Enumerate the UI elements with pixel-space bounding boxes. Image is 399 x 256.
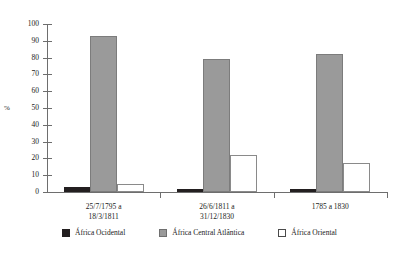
y-axis-title: % <box>4 104 10 112</box>
y-axis-tick <box>43 74 52 75</box>
bar <box>203 59 230 192</box>
legend-label: África Oriental <box>291 228 337 237</box>
bar-chart: % 0102030405060708090100 25/7/1795 a 18/… <box>0 0 399 256</box>
chart-legend: África OcidentalÁfrica Central Atlântica… <box>0 228 399 237</box>
legend-item: África Ocidental <box>62 228 125 237</box>
bar <box>90 36 117 192</box>
page-bleed-bottom <box>0 249 399 256</box>
legend-label: África Ocidental <box>75 228 125 237</box>
y-axis-tick <box>43 142 52 143</box>
bar <box>230 155 257 192</box>
x-axis-group-tick <box>160 192 161 198</box>
x-axis-category-label: 26/6/1811 a 31/12/1830 <box>160 202 273 221</box>
y-axis-tick <box>43 41 52 42</box>
x-axis-category-label: 1785 a 1830 <box>274 202 387 212</box>
y-axis-tick <box>43 24 52 25</box>
y-axis-tick <box>43 158 52 159</box>
y-axis-tick-label: 40 <box>13 121 39 129</box>
y-axis-tick <box>43 58 52 59</box>
bar <box>343 163 370 192</box>
y-axis-tick <box>43 91 52 92</box>
y-axis-tick <box>43 192 52 193</box>
y-axis-tick <box>43 125 52 126</box>
bar <box>316 54 343 192</box>
y-axis-tick <box>43 175 52 176</box>
x-axis-category-label: 25/7/1795 a 18/3/1811 <box>47 202 160 221</box>
bar <box>117 184 144 192</box>
legend-swatch-icon <box>278 229 286 237</box>
y-axis-tick-label: 90 <box>13 37 39 45</box>
legend-label: África Central Atlântica <box>172 228 244 237</box>
legend-swatch-icon <box>62 229 70 237</box>
legend-swatch-icon <box>159 229 167 237</box>
y-axis-tick-label: 10 <box>13 171 39 179</box>
y-axis-tick-label: 50 <box>13 104 39 112</box>
legend-item: África Central Atlântica <box>159 228 244 237</box>
y-axis-tick-label: 30 <box>13 138 39 146</box>
y-axis-tick <box>43 108 52 109</box>
x-axis-group-tick <box>274 192 275 198</box>
y-axis-tick-label: 60 <box>13 87 39 95</box>
x-axis-group-tick <box>387 192 388 198</box>
y-axis-tick-label: 100 <box>13 20 39 28</box>
bar <box>177 189 203 192</box>
x-axis-line <box>47 192 387 193</box>
y-axis-tick-label: 70 <box>13 70 39 78</box>
y-axis-tick-label: 20 <box>13 154 39 162</box>
y-axis-tick-label: 0 <box>13 188 39 196</box>
y-axis-tick-label: 80 <box>13 54 39 62</box>
bar <box>64 187 90 192</box>
bar <box>290 189 316 192</box>
legend-item: África Oriental <box>278 228 337 237</box>
